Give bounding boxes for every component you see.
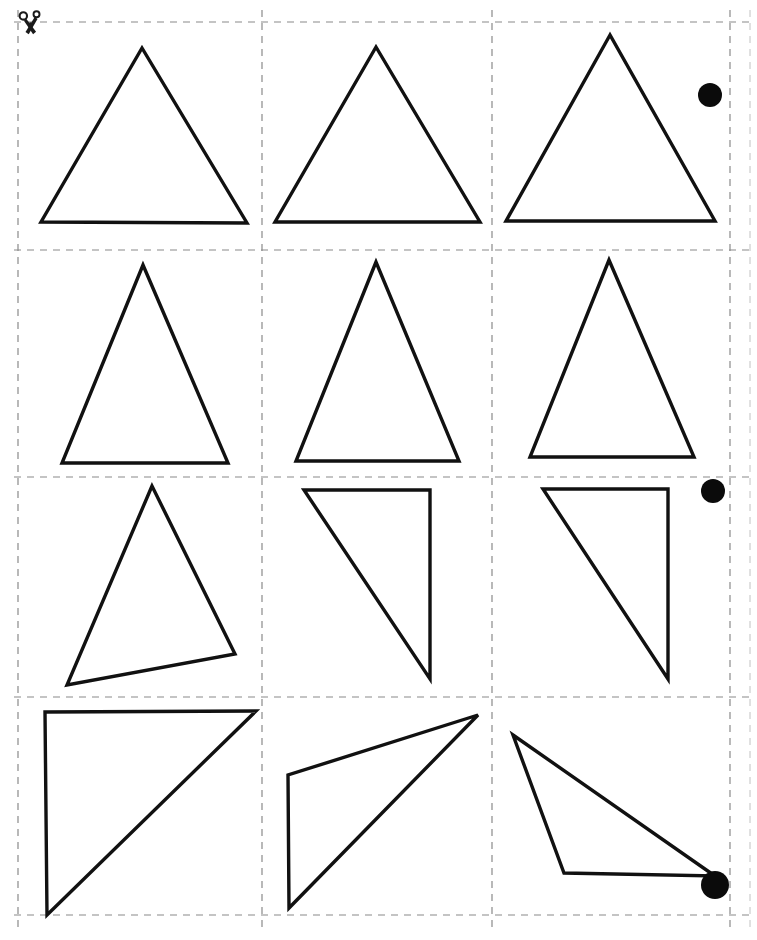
scissors-ring-right — [34, 11, 40, 17]
scissors-pivot — [29, 22, 32, 25]
worksheet-page — [0, 0, 757, 940]
scissors-ring-left — [20, 12, 27, 19]
scissors-icon-layer — [0, 0, 757, 940]
scissors-icon — [20, 11, 40, 34]
